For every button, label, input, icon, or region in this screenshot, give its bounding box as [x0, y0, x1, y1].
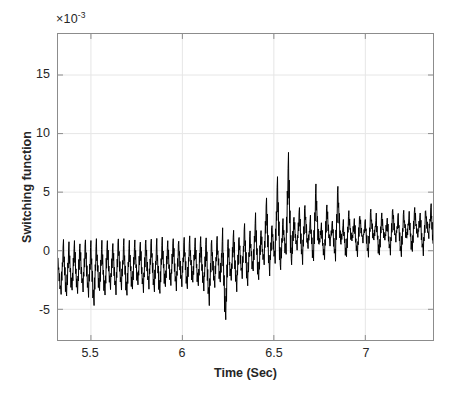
x-tick-label: 7 [362, 346, 369, 360]
matlab-figure: ×10-3 151050-5 5.566.57 Time (Sec) Switc… [0, 0, 459, 396]
y-axis-title: Switching function [20, 87, 34, 287]
x-tick-label: 6 [179, 346, 186, 360]
x-axis-ticks: 5.566.57 [0, 0, 459, 396]
x-tick-label: 6.5 [265, 346, 282, 360]
x-axis-title: Time (Sec) [57, 366, 434, 380]
x-tick-label: 5.5 [81, 346, 98, 360]
